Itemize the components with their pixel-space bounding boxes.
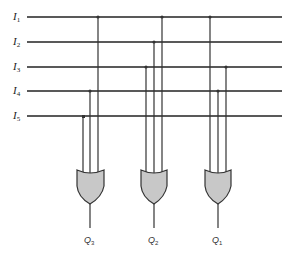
junction-dot [152, 40, 155, 43]
input-label-i4: I4 [13, 85, 20, 98]
output-label-q3: Q3 [84, 236, 94, 246]
junction-dot [224, 65, 227, 68]
or-gate-q1 [205, 170, 231, 204]
or-gate-q2 [141, 170, 167, 204]
junction-dot [144, 65, 147, 68]
input-label-i1: I1 [13, 11, 20, 24]
junction-dot [96, 15, 99, 18]
wire-q3-i5 [83, 116, 84, 175]
input-label-i2: I2 [13, 36, 20, 49]
junction-dot [88, 89, 91, 92]
input-label-i5: I5 [13, 110, 20, 123]
junction-dot [208, 15, 211, 18]
junction-dot [160, 15, 163, 18]
or-gate-q3 [77, 170, 104, 204]
output-label-q1: Q1 [212, 236, 222, 246]
junction-dot [82, 115, 85, 118]
junction-dot [216, 89, 219, 92]
encoder-circuit [0, 0, 297, 254]
input-label-i3: I3 [13, 61, 20, 74]
output-label-q2: Q2 [148, 236, 158, 246]
